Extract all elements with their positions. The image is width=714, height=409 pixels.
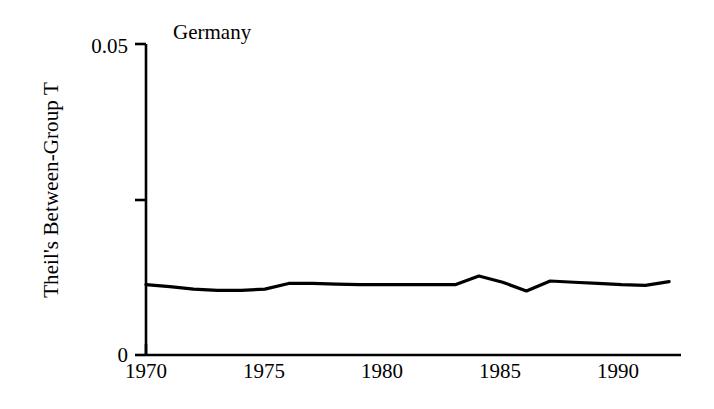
- data-series-line: [146, 276, 669, 291]
- plot-canvas: [0, 0, 714, 409]
- axis-lines: [135, 44, 681, 355]
- chart-figure: Theil's Between-Group T 0.05 0 1970 1975…: [0, 0, 714, 409]
